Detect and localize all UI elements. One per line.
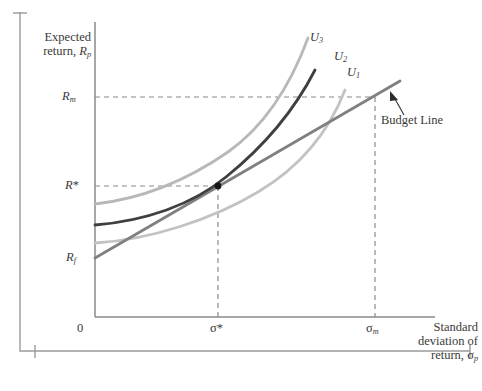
curve-label-u2: U2 xyxy=(334,49,347,64)
y-axis-title-sub: p xyxy=(87,50,91,59)
curve-u3-var: U xyxy=(310,30,319,44)
figure-root: Expected return, Rp Rm R* Rf 0 σ* σm Sta… xyxy=(0,0,482,391)
budget-line-callout-label: Budget Line xyxy=(381,113,443,127)
y-axis-title-var: R xyxy=(79,44,87,58)
x-tick-label-sigma-star: σ* xyxy=(210,321,223,335)
y-tick-rm-sub: m xyxy=(70,95,76,104)
budget-line-callout-arrow xyxy=(390,91,404,115)
origin-label: 0 xyxy=(77,321,83,335)
y-tick-label-rstar: R* xyxy=(65,178,79,192)
curve-u1-var: U xyxy=(347,65,356,79)
curve-u2-var: U xyxy=(334,49,343,63)
x-axis-title: Standard deviation of return, σp xyxy=(366,320,478,363)
x-tick-sigma-star-star: * xyxy=(217,321,223,335)
x-tick-sigma-star-var: σ xyxy=(210,321,217,335)
curve-u2-sub: 2 xyxy=(343,55,347,64)
reference-lines xyxy=(95,97,375,317)
x-axis-title-line3: return, xyxy=(431,348,467,362)
y-axis-title: Expected return, Rp xyxy=(33,30,91,59)
optimum-point-marker xyxy=(215,183,222,190)
y-tick-rstar-var: R xyxy=(65,178,73,192)
y-axis-title-line2: return, xyxy=(43,44,79,58)
y-tick-rf-var: R xyxy=(66,250,74,264)
curve-label-u1: U1 xyxy=(347,65,360,80)
x-axis-title-line2: deviation of xyxy=(418,334,478,348)
x-axis-title-line1: Standard xyxy=(434,320,478,334)
y-tick-label-rm: Rm xyxy=(62,89,76,104)
y-tick-rf-sub: f xyxy=(74,256,76,265)
y-tick-rstar-star: * xyxy=(73,178,79,192)
y-tick-rm-var: R xyxy=(62,89,70,103)
curve-u3-sub: 3 xyxy=(319,36,323,45)
x-axis-title-sub: p xyxy=(474,354,478,363)
curve-u1-sub: 1 xyxy=(356,71,360,80)
budget-line xyxy=(95,81,400,258)
y-tick-label-rf: Rf xyxy=(66,250,76,265)
curve-label-u3: U3 xyxy=(310,30,323,45)
x-axis-title-var: σ xyxy=(467,348,474,362)
y-axis-title-line1: Expected xyxy=(44,30,91,44)
page-frame xyxy=(13,12,470,358)
plot-axes xyxy=(95,22,435,317)
